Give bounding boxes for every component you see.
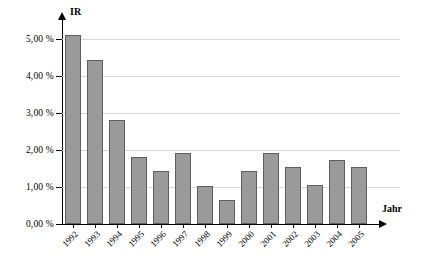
x-axis-tick-label: 2000 <box>236 229 256 249</box>
y-axis-tick-label: 5,00 % <box>26 34 54 44</box>
bars-group: 1992199319941995199619971998199920002001… <box>62 24 370 224</box>
bar <box>285 167 301 224</box>
y-axis-tick <box>56 224 62 225</box>
bar <box>153 171 169 224</box>
x-axis-tick <box>227 224 228 228</box>
bar <box>65 35 81 224</box>
x-axis-tick <box>205 224 206 228</box>
x-axis-tick <box>117 224 118 228</box>
gridline <box>62 224 400 225</box>
x-axis-tick <box>337 224 338 228</box>
x-axis-tick <box>271 224 272 228</box>
y-axis-tick-label: 3,00 % <box>26 108 54 118</box>
x-axis-tick-label: 2005 <box>346 229 366 249</box>
bar-chart: IR Jahr 0,00 %1,00 %2,00 %3,00 %4,00 %5,… <box>0 0 432 260</box>
bar <box>131 157 147 224</box>
x-axis-tick <box>315 224 316 228</box>
bar <box>175 153 191 224</box>
x-axis-tick-label: 1992 <box>60 229 80 249</box>
bar <box>329 160 345 224</box>
x-axis-tick-label: 1993 <box>82 229 102 249</box>
x-axis-tick <box>95 224 96 228</box>
x-axis-tick-label: 2002 <box>280 229 300 249</box>
y-axis-tick-label: 0,00 % <box>26 219 54 229</box>
plot-area: 0,00 %1,00 %2,00 %3,00 %4,00 %5,00 % 199… <box>62 24 400 224</box>
x-axis-tick-label: 1998 <box>192 229 212 249</box>
bar <box>307 185 323 224</box>
bar <box>87 60 103 224</box>
x-axis-tick <box>73 224 74 228</box>
x-axis-tick <box>183 224 184 228</box>
y-axis-title: IR <box>70 6 81 17</box>
x-axis-tick-label: 2004 <box>324 229 344 249</box>
bar <box>263 153 279 224</box>
y-axis-tick-label: 1,00 % <box>26 182 54 192</box>
x-axis-tick <box>139 224 140 228</box>
y-axis-arrow-icon <box>58 12 66 20</box>
bar <box>351 167 367 224</box>
x-axis-tick-label: 1995 <box>126 229 146 249</box>
x-axis-tick-label: 2003 <box>302 229 322 249</box>
x-axis-tick-label: 1997 <box>170 229 190 249</box>
x-axis-tick-label: 1994 <box>104 229 124 249</box>
y-axis-tick-label: 2,00 % <box>26 145 54 155</box>
x-axis-tick-label: 1999 <box>214 229 234 249</box>
bar <box>219 200 235 224</box>
x-axis-tick <box>293 224 294 228</box>
x-axis-tick-label: 2001 <box>258 229 278 249</box>
x-axis-tick-label: 1996 <box>148 229 168 249</box>
bar <box>109 120 125 224</box>
bar <box>197 186 213 224</box>
x-axis-tick <box>161 224 162 228</box>
x-axis-tick <box>359 224 360 228</box>
bar <box>241 171 257 224</box>
y-axis-tick-label: 4,00 % <box>26 71 54 81</box>
x-axis-tick <box>249 224 250 228</box>
